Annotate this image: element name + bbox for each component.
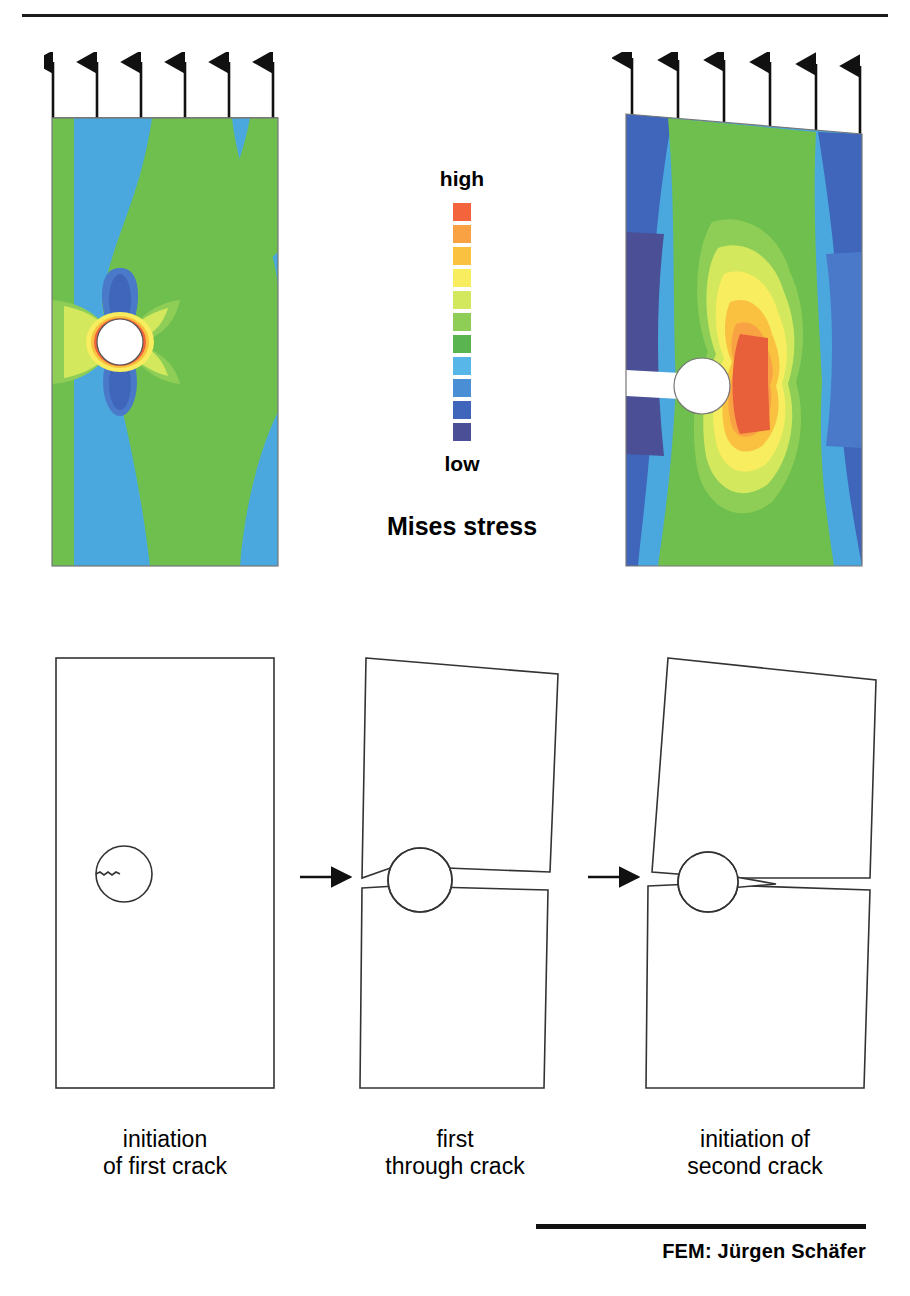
stress-field-undamaged <box>52 118 278 566</box>
stage-2-caption: first through crack <box>330 1126 580 1180</box>
legend-swatch-1 <box>453 225 471 243</box>
stage-2-caption-line1: first <box>330 1126 580 1153</box>
stage-2-caption-line2: through crack <box>330 1153 580 1180</box>
legend-swatch-4 <box>453 291 471 309</box>
stage-diagram-2 <box>336 640 586 1110</box>
legend-swatch-3 <box>453 269 471 287</box>
figure-root: high low Mises stress <box>0 0 910 1296</box>
legend-low-label: low <box>392 453 532 474</box>
upper-half-outline <box>362 658 558 878</box>
stress-field-cracked <box>612 52 880 572</box>
legend-swatch-7 <box>453 357 471 375</box>
stage-diagram-1 <box>44 640 294 1110</box>
legend-swatch-list <box>392 203 532 441</box>
legend-title: Mises stress <box>372 512 552 541</box>
legend-swatch-6 <box>453 335 471 353</box>
lower-half-outline <box>360 886 548 1088</box>
legend-swatch-5 <box>453 313 471 331</box>
footer-divider <box>536 1224 866 1229</box>
upper-half-outline <box>652 658 876 878</box>
legend-swatch-2 <box>453 247 471 265</box>
stage-diagram-3 <box>620 640 888 1110</box>
legend-swatch-0 <box>453 203 471 221</box>
stage-1-caption-line2: of first crack <box>40 1153 290 1180</box>
load-arrow-group <box>53 62 273 118</box>
top-divider <box>22 14 888 17</box>
legend-swatch-10 <box>453 423 471 441</box>
legend-swatch-9 <box>453 401 471 419</box>
stage-3-caption: initiation of second crack <box>620 1126 890 1180</box>
lower-half-outline <box>646 884 870 1088</box>
stage-3-caption-line1: initiation of <box>620 1126 890 1153</box>
stage-1-caption-line1: initiation <box>40 1126 290 1153</box>
contour-plot-undamaged <box>44 52 294 572</box>
stress-legend: high low <box>392 168 532 474</box>
legend-high-label: high <box>392 168 532 189</box>
stage-1-caption: initiation of first crack <box>40 1126 290 1180</box>
footer-credit: FEM: Jürgen Schäfer <box>536 1240 866 1263</box>
legend-swatch-8 <box>453 379 471 397</box>
contour-plot-cracked <box>612 52 880 572</box>
stage-3-caption-line2: second crack <box>620 1153 890 1180</box>
